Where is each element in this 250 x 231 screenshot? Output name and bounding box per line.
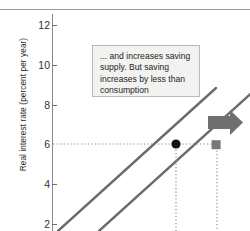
series-new-saving-supply-curve [99, 88, 250, 231]
annotation-callout-box: ... and increases saving supply. But sav… [92, 45, 200, 97]
plot-area [0, 0, 250, 231]
series-original-saving-supply-curve [58, 88, 216, 231]
marker-original-equilibrium-point [171, 139, 180, 148]
marker-new-equilibrium-point [212, 140, 221, 149]
saving-supply-shift-chart: Real interest rate (percent per year) 12… [0, 0, 250, 231]
annotation-callout-text: ... and increases saving supply. But sav… [100, 51, 193, 97]
supply-shift-arrow-icon [208, 110, 243, 135]
